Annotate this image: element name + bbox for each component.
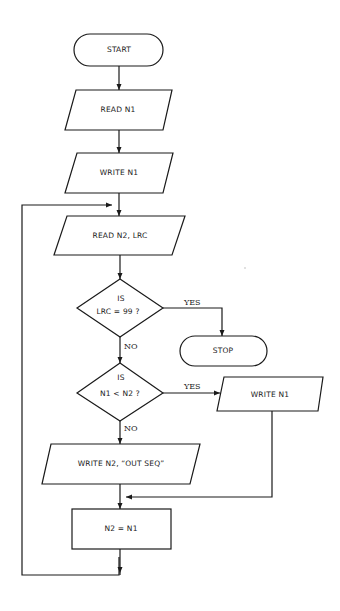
decision-n1-n2-line1: IS — [117, 373, 124, 382]
n1n2-no-label: NO — [124, 424, 138, 433]
connector-lrc-yes: YES — [163, 298, 225, 336]
write-n1-label: WRITE N1 — [100, 168, 139, 177]
write-n1-right-io: WRITE N1 — [217, 377, 323, 411]
connector-assign-to-loop — [118, 549, 123, 575]
connector-start-to-read — [117, 66, 122, 90]
lrc-no-label: NO — [124, 342, 138, 351]
stop-label: STOP — [213, 346, 234, 355]
read-n2-lrc-label: READ N2, LRC — [92, 231, 147, 240]
write-out-seq-label: WRITE N2, “OUT SEQ” — [78, 459, 165, 468]
decision-n1-n2-line2: N1 < N2 ? — [100, 389, 140, 398]
scan-speck — [244, 267, 246, 269]
decision-n1-n2: IS N1 < N2 ? — [77, 363, 163, 421]
n1n2-yes-label: YES — [183, 382, 201, 391]
decision-lrc-line2: LRC = 99 ? — [96, 307, 139, 316]
stop-terminal: STOP — [180, 336, 267, 366]
decision-lrc-line1: IS — [117, 294, 124, 303]
connector-lrc-no: NO — [118, 337, 139, 363]
decision-lrc: IS LRC = 99 ? — [77, 279, 163, 337]
start-label: START — [107, 45, 131, 54]
read-n2-lrc-io: READ N2, LRC — [54, 216, 185, 255]
flowchart-canvas: START READ N1 WRITE N1 READ N2, LRC — [0, 0, 340, 611]
read-n1-io: READ N1 — [65, 90, 172, 130]
connector-n1n2-yes: YES — [163, 382, 220, 396]
read-n1-label: READ N1 — [100, 105, 135, 114]
write-n1-right-label: WRITE N1 — [251, 390, 290, 399]
connector-write-to-read-n2 — [117, 193, 122, 216]
lrc-yes-label: YES — [183, 298, 201, 307]
assign-label: N2 = N1 — [104, 524, 137, 533]
write-n1-io: WRITE N1 — [65, 153, 173, 193]
assign-process: N2 = N1 — [72, 509, 171, 549]
connector-read-to-write — [117, 130, 122, 153]
write-out-seq-io: WRITE N2, “OUT SEQ” — [42, 444, 200, 484]
start-terminal: START — [74, 34, 163, 66]
connector-n1n2-no: NO — [118, 421, 139, 444]
connector-read-to-decision-lrc — [118, 255, 123, 279]
